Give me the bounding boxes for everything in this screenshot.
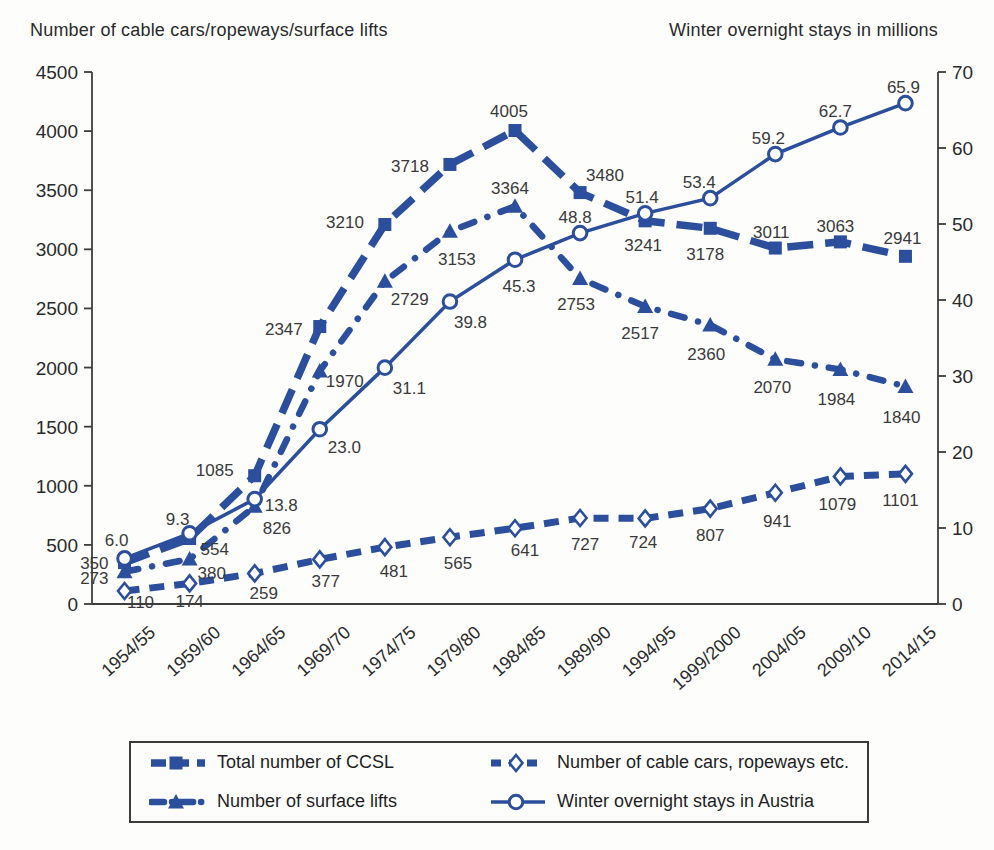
svg-text:1974/75: 1974/75 — [358, 622, 420, 680]
svg-text:1999/2000: 1999/2000 — [668, 622, 745, 694]
svg-text:40: 40 — [952, 290, 973, 311]
svg-text:565: 565 — [444, 554, 472, 573]
svg-text:3011: 3011 — [753, 223, 790, 242]
svg-text:0: 0 — [67, 594, 78, 615]
svg-text:39.8: 39.8 — [454, 313, 487, 332]
figure: Number of cable cars/ropeways/surface li… — [0, 0, 994, 850]
svg-text:807: 807 — [696, 526, 724, 545]
svg-text:1969/70: 1969/70 — [293, 622, 355, 680]
legend-item-overnight-stays: Winter overnight stays in Austria — [489, 791, 867, 813]
svg-text:3210: 3210 — [326, 213, 364, 232]
svg-text:3063: 3063 — [816, 217, 854, 236]
svg-text:1994/95: 1994/95 — [618, 622, 680, 680]
svg-text:50: 50 — [952, 214, 973, 235]
legend-label-cable-cars: Number of cable cars, ropeways etc. — [557, 752, 849, 773]
legend: Total number of CCSL Number of cable car… — [129, 741, 869, 823]
svg-text:0: 0 — [952, 594, 963, 615]
svg-text:2014/15: 2014/15 — [878, 622, 940, 680]
svg-text:53.4: 53.4 — [683, 173, 716, 192]
svg-text:4500: 4500 — [36, 62, 78, 83]
series-labels-total-ccsl: 3505541085234732103718400534803241317830… — [80, 102, 921, 573]
legend-label-overnight-stays: Winter overnight stays in Austria — [557, 791, 814, 812]
svg-text:826: 826 — [263, 519, 291, 538]
svg-text:51.4: 51.4 — [626, 188, 659, 207]
svg-text:59.2: 59.2 — [752, 129, 785, 148]
svg-text:3241: 3241 — [624, 236, 662, 255]
svg-text:3178: 3178 — [686, 245, 724, 264]
svg-text:3364: 3364 — [491, 179, 529, 198]
svg-text:110: 110 — [127, 593, 154, 612]
svg-text:70: 70 — [952, 62, 973, 83]
svg-text:259: 259 — [250, 584, 278, 603]
svg-text:554: 554 — [201, 540, 229, 559]
chart-canvas: 0500100015002000250030003500400045000102… — [0, 0, 994, 850]
svg-text:3480: 3480 — [586, 166, 624, 185]
series-cable-cars — [118, 466, 912, 599]
svg-text:23.0: 23.0 — [328, 438, 361, 457]
svg-text:1959/60: 1959/60 — [163, 622, 225, 680]
svg-text:62.7: 62.7 — [819, 102, 852, 121]
svg-text:1964/65: 1964/65 — [228, 622, 290, 680]
svg-text:174: 174 — [175, 592, 203, 611]
svg-text:481: 481 — [380, 562, 408, 581]
svg-text:1000: 1000 — [36, 476, 78, 497]
svg-text:2360: 2360 — [687, 345, 725, 364]
svg-text:2941: 2941 — [884, 229, 922, 248]
legend-label-total-ccsl: Total number of CCSL — [217, 752, 394, 773]
legend-sample-total-ccsl-icon — [149, 752, 207, 774]
svg-text:2000: 2000 — [36, 358, 78, 379]
svg-text:1979/80: 1979/80 — [423, 622, 485, 680]
series-labels-cable-cars: 1101742593774815656417277248079411079110… — [127, 491, 919, 612]
svg-text:30: 30 — [952, 366, 973, 387]
svg-text:2004/05: 2004/05 — [748, 622, 810, 680]
svg-text:13.8: 13.8 — [265, 496, 298, 515]
svg-text:2347: 2347 — [265, 320, 303, 339]
svg-text:2729: 2729 — [391, 290, 429, 309]
svg-text:1101: 1101 — [882, 491, 919, 510]
svg-text:1085: 1085 — [196, 461, 234, 480]
svg-text:727: 727 — [571, 535, 599, 554]
svg-text:1989/90: 1989/90 — [553, 622, 615, 680]
legend-sample-cable-cars-icon — [489, 752, 547, 774]
svg-text:31.1: 31.1 — [393, 379, 426, 398]
svg-text:3000: 3000 — [36, 239, 78, 260]
svg-text:1840: 1840 — [883, 408, 921, 427]
svg-text:20: 20 — [952, 442, 973, 463]
right-axis-title: Winter overnight stays in millions — [669, 20, 938, 41]
svg-text:9.3: 9.3 — [166, 510, 190, 529]
svg-text:500: 500 — [46, 535, 78, 556]
svg-text:45.3: 45.3 — [502, 277, 535, 296]
svg-text:1954/55: 1954/55 — [97, 622, 159, 680]
svg-text:377: 377 — [312, 572, 340, 591]
legend-sample-overnight-stays-icon — [489, 791, 547, 813]
svg-text:724: 724 — [629, 533, 657, 552]
svg-text:1970: 1970 — [326, 372, 364, 391]
legend-label-surface-lifts: Number of surface lifts — [217, 791, 397, 812]
legend-item-total-ccsl: Total number of CCSL — [149, 752, 489, 774]
svg-text:65.9: 65.9 — [887, 78, 920, 97]
legend-item-surface-lifts: Number of surface lifts — [149, 791, 489, 813]
svg-text:1984: 1984 — [817, 390, 855, 409]
svg-text:60: 60 — [952, 138, 973, 159]
svg-text:2517: 2517 — [621, 324, 659, 343]
svg-text:4005: 4005 — [490, 102, 528, 121]
svg-text:273: 273 — [80, 569, 108, 588]
svg-text:1984/85: 1984/85 — [488, 622, 550, 680]
svg-text:641: 641 — [511, 541, 539, 560]
legend-sample-surface-lifts-icon — [149, 791, 207, 813]
svg-text:2070: 2070 — [753, 378, 791, 397]
svg-text:3718: 3718 — [391, 157, 429, 176]
svg-text:380: 380 — [198, 564, 226, 583]
svg-text:2500: 2500 — [36, 298, 78, 319]
svg-text:1500: 1500 — [36, 417, 78, 438]
legend-item-cable-cars: Number of cable cars, ropeways etc. — [489, 752, 867, 774]
left-axis-title: Number of cable cars/ropeways/surface li… — [30, 20, 388, 41]
svg-text:2009/10: 2009/10 — [813, 622, 875, 680]
svg-text:1079: 1079 — [818, 495, 856, 514]
svg-text:3500: 3500 — [36, 180, 78, 201]
svg-text:48.8: 48.8 — [559, 208, 592, 227]
svg-text:6.0: 6.0 — [105, 531, 129, 550]
svg-text:10: 10 — [952, 518, 973, 539]
svg-text:941: 941 — [763, 512, 791, 531]
svg-text:3153: 3153 — [438, 250, 476, 269]
